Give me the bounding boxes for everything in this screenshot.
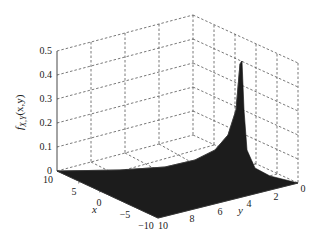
svg-text:0.5: 0.5 xyxy=(40,45,53,56)
svg-text:0: 0 xyxy=(97,197,102,208)
svg-text:0.2: 0.2 xyxy=(40,117,53,128)
pdf-surface xyxy=(57,61,298,218)
svg-text:−10: −10 xyxy=(138,220,154,231)
z-axis-ticks: 0 0.1 0.2 0.3 0.4 0.5 xyxy=(40,45,53,176)
svg-text:2: 2 xyxy=(274,191,279,202)
svg-text:5: 5 xyxy=(72,186,77,197)
svg-text:10: 10 xyxy=(43,174,53,185)
svg-text:6: 6 xyxy=(218,206,223,217)
svg-text:4: 4 xyxy=(247,198,252,209)
svg-text:fX,Y(x,y): fX,Y(x,y) xyxy=(13,94,28,130)
y-axis-label: y xyxy=(237,204,243,216)
svg-text:8: 8 xyxy=(190,213,195,224)
svg-text:0.4: 0.4 xyxy=(40,69,53,80)
svg-text:0: 0 xyxy=(301,183,306,194)
surface-plot: 0 0.1 0.2 0.3 0.4 0.5 10 5 0 −5 −10 10 8… xyxy=(0,0,320,243)
svg-text:10: 10 xyxy=(158,220,168,231)
svg-text:−5: −5 xyxy=(120,209,131,220)
x-axis-label: x xyxy=(91,203,97,215)
svg-text:0.3: 0.3 xyxy=(40,93,53,104)
z-axis-label: fX,Y(x,y) xyxy=(13,94,28,130)
svg-text:0.1: 0.1 xyxy=(40,141,53,152)
back-left-wall-grid xyxy=(57,15,193,171)
